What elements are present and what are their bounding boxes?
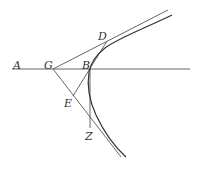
label-a: A [13, 60, 21, 71]
line-g-d [53, 10, 168, 69]
diagram-svg [0, 0, 199, 175]
label-z: Z [85, 131, 93, 142]
line-g-lower [53, 69, 121, 157]
label-g: G [44, 60, 53, 71]
label-d: D [98, 31, 107, 42]
hyperbola-diagram: A G B D E Z [0, 0, 199, 175]
label-b: B [82, 60, 90, 71]
label-e: E [64, 98, 72, 109]
